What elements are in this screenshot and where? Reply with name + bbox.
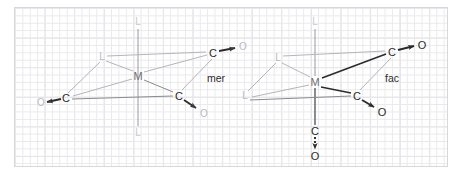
mer-bond-Cleft-Cbotright bbox=[72, 96, 173, 99]
fac-carbon-label-bottom: C bbox=[311, 126, 319, 137]
mer-co-bond-left bbox=[47, 99, 61, 102]
mer-ligand-label-1: L bbox=[99, 52, 105, 62]
fac-oxygen-label-topright: O bbox=[418, 40, 427, 51]
fac-carbon-label-topright: C bbox=[388, 47, 396, 58]
mer-bond-M-Ctopright bbox=[144, 55, 207, 72]
mer-bond-M-Cbotright bbox=[144, 80, 173, 92]
mer-carbon-label-bottomright: C bbox=[175, 91, 183, 102]
fac-axial-ligand-top-label: L bbox=[312, 17, 318, 27]
mer-carbon-label-topright: C bbox=[209, 48, 217, 59]
mer-oxygen-label-left: O bbox=[37, 98, 45, 108]
mer-metal-center-label: M bbox=[133, 71, 142, 82]
fac-bond-M-Cbotright bbox=[321, 87, 351, 93]
mer-bond-Lupper-Cleft bbox=[68, 62, 100, 93]
mer-oxygen-label-bottomright: O bbox=[200, 109, 208, 119]
fac-oxygen-label-bottomright: O bbox=[378, 107, 387, 118]
fac-bond-Lleft-Cbotright bbox=[250, 96, 351, 100]
fac-bond-M-Ctopright bbox=[322, 54, 386, 78]
fac-ligand-label-1: L bbox=[275, 53, 281, 63]
mer-bond-M-Lupper bbox=[106, 61, 133, 71]
mer-bond-Lupper-Ctopright bbox=[107, 52, 206, 56]
mer-oxygen-label-topright: O bbox=[239, 42, 247, 52]
fac-ligand-label-2: L bbox=[242, 91, 248, 101]
structure-drawing bbox=[0, 0, 462, 176]
fac-bond-M-Lupper bbox=[282, 63, 310, 77]
fac-co-bond-topright bbox=[398, 46, 414, 50]
mer-carbon-label-left: C bbox=[62, 93, 70, 104]
mer-bond-M-Cleft bbox=[73, 79, 132, 96]
mer-isomer-label: mer bbox=[207, 73, 225, 84]
mer-axial-ligand-top-label: L bbox=[135, 17, 141, 27]
fac-isomer-label: fac bbox=[385, 73, 399, 84]
fac-co-bond-botright bbox=[362, 100, 374, 107]
fac-bond-M-Lleft bbox=[252, 85, 309, 97]
mer-co-bond-topright bbox=[219, 48, 235, 51]
fac-bond-Lupper-Lleft bbox=[248, 63, 276, 91]
fac-bond-Lupper-Ctopright bbox=[283, 51, 385, 56]
fac-oxygen-label-bottom: O bbox=[311, 151, 320, 162]
figure-canvas: L L M L C O C O C O mer L M L L C O C O … bbox=[0, 0, 462, 176]
mer-co-bond-botright bbox=[184, 100, 196, 108]
fac-carbon-label-bottomright: C bbox=[353, 91, 361, 102]
mer-axial-ligand-bottom-label: L bbox=[135, 128, 141, 138]
fac-metal-center-label: M bbox=[310, 77, 319, 88]
